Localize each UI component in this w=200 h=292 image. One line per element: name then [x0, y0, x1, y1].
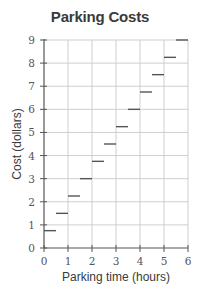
y-tick-label: 2: [28, 196, 35, 208]
y-tick-label: 0: [28, 242, 35, 254]
x-tick-label: 6: [185, 255, 192, 267]
x-tick-labels: 0123456: [41, 255, 192, 267]
y-tick-labels: 0123456789: [28, 34, 35, 254]
x-tick-label: 2: [89, 255, 96, 267]
x-tick-label: 5: [161, 255, 168, 267]
x-axis-label: Parking time (hours): [62, 270, 170, 284]
x-tick-label: 4: [137, 255, 144, 267]
x-tick-label: 3: [113, 255, 120, 267]
y-tick-label: 8: [28, 57, 35, 69]
x-tick-label: 1: [65, 255, 72, 267]
y-tick-label: 9: [28, 34, 35, 46]
y-tick-label: 6: [28, 103, 35, 115]
y-tick-label: 7: [28, 80, 35, 92]
y-tick-label: 4: [28, 150, 35, 162]
y-tick-label: 5: [28, 126, 35, 138]
step-chart: 0123456789 0123456 Parking time (hours) …: [0, 0, 200, 292]
x-tick-label: 0: [41, 255, 48, 267]
y-tick-label: 1: [28, 219, 35, 231]
axes: [40, 39, 188, 252]
y-tick-label: 3: [28, 173, 35, 185]
y-axis-label: Cost (dollars): [10, 108, 24, 179]
